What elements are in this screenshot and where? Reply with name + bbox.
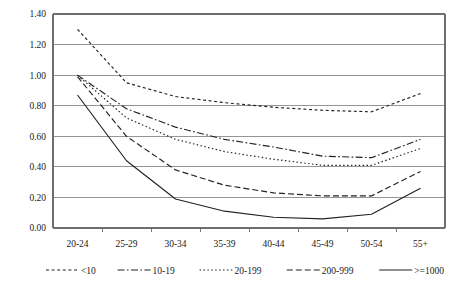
legend-label: <10 <box>81 266 96 276</box>
x-axis-tick-label: 25-29 <box>115 239 137 249</box>
y-axis-tick-label: 1.20 <box>29 40 46 50</box>
y-axis-tick-label: 0.20 <box>29 193 46 203</box>
y-axis-tick-label: 0.40 <box>29 162 46 172</box>
legend-label: >=1000 <box>414 266 444 276</box>
x-axis-tick-label: 40-44 <box>262 239 284 249</box>
x-axis-tick-label: 35-39 <box>213 239 235 249</box>
y-axis-tick-label: 0.00 <box>29 223 46 233</box>
x-axis-tick-label: 45-49 <box>311 239 333 249</box>
line-chart: 0.000.200.400.600.801.001.201.40 20-2425… <box>0 0 467 288</box>
x-axis-tick-label: 20-24 <box>66 239 88 249</box>
chart-container: 0.000.200.400.600.801.001.201.40 20-2425… <box>0 0 467 288</box>
y-axis-tick-label: 1.40 <box>29 9 46 19</box>
legend-label: 200-999 <box>322 266 354 276</box>
y-axis-tick-label: 0.60 <box>29 132 46 142</box>
x-axis-tick-label: 55+ <box>413 239 428 249</box>
x-axis-tick-label: 30-34 <box>164 239 186 249</box>
legend-label: 10-19 <box>153 266 175 276</box>
y-axis-tick-label: 0.80 <box>29 101 46 111</box>
legend-label: 20-199 <box>235 266 262 276</box>
y-axis-tick-label: 1.00 <box>29 71 46 81</box>
x-axis-tick-label: 50-54 <box>360 239 382 249</box>
